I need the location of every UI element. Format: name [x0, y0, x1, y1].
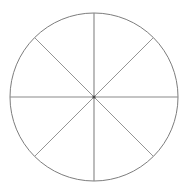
- eighths-circle-diagram: [0, 0, 189, 194]
- figure-canvas: [0, 0, 189, 194]
- center-point-marker: [92, 95, 95, 98]
